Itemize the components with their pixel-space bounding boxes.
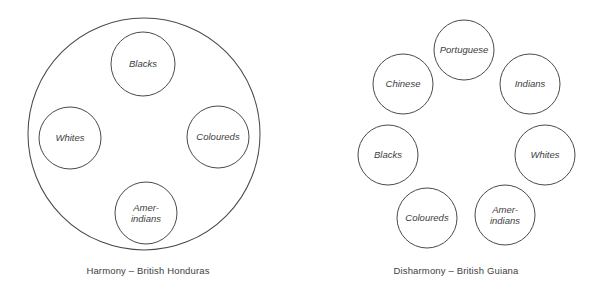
group-label-indians: Indians (515, 78, 546, 89)
group-label-chinese: Chinese (386, 78, 421, 89)
group-portuguese: Portuguese (434, 20, 494, 80)
group-label-whites: Whites (530, 149, 559, 160)
group-label-blacks: Blacks (374, 149, 402, 160)
panel-harmony: BlacksWhitesColouredsAmer-indiansHarmony… (28, 18, 260, 276)
group-coloureds: Coloureds (397, 188, 457, 248)
group-label-amer-indians: Amer-indians (490, 203, 520, 225)
group-whites: Whites (39, 107, 101, 169)
group-label-blacks: Blacks (129, 58, 157, 69)
group-label-coloureds: Coloureds (196, 131, 240, 142)
panel-disharmony: PortugueseChineseIndiansBlacksWhitesColo… (358, 20, 575, 276)
group-chinese: Chinese (373, 54, 433, 114)
group-blacks: Blacks (358, 125, 418, 185)
group-label-amer-indians: Amer-indians (131, 201, 161, 223)
group-coloureds: Coloureds (187, 106, 249, 168)
group-amer-indians: Amer-indians (115, 182, 177, 244)
group-label-coloureds: Coloureds (405, 212, 449, 223)
group-amer-indians: Amer-indians (475, 185, 535, 245)
panels-layer: BlacksWhitesColouredsAmer-indiansHarmony… (28, 18, 575, 276)
group-label-portuguese: Portuguese (440, 44, 489, 55)
caption-disharmony: Disharmony – British Guiana (394, 265, 520, 276)
group-whites: Whites (515, 125, 575, 185)
diagram-figure: BlacksWhitesColouredsAmer-indiansHarmony… (0, 0, 597, 295)
group-indians: Indians (500, 54, 560, 114)
group-label-whites: Whites (55, 132, 84, 143)
group-blacks: Blacks (111, 32, 175, 96)
diagram-canvas: BlacksWhitesColouredsAmer-indiansHarmony… (0, 0, 597, 295)
caption-harmony: Harmony – British Honduras (86, 265, 209, 276)
